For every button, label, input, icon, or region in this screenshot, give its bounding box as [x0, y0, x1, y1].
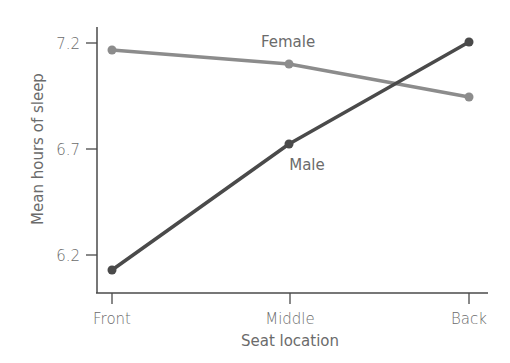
y-axis-title: Mean hours of sleep [29, 73, 47, 225]
male-point-back [465, 38, 474, 47]
male-point-front [108, 266, 117, 275]
y-tick-label: 7.2 [56, 35, 80, 53]
female-point-front [108, 46, 117, 55]
x-tick-label: Middle [265, 310, 315, 328]
female-point-middle [285, 60, 294, 69]
x-tick-label: Back [451, 310, 487, 328]
x-axis-title: Seat location [241, 332, 339, 350]
line-chart: 7.2 6.7 6.2 Front Middle Back Seat locat… [0, 0, 510, 363]
y-tick-label: 6.7 [56, 141, 80, 159]
female-label: Female [261, 33, 315, 51]
male-point-middle [285, 140, 294, 149]
x-tick-label: Front [93, 310, 131, 328]
male-label: Male [289, 156, 325, 174]
y-tick-label: 6.2 [56, 247, 80, 265]
female-point-back [465, 93, 474, 102]
